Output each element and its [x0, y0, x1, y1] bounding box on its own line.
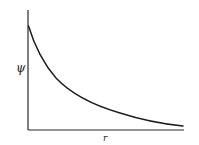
x-axis-label: r — [103, 133, 108, 143]
diagram-canvas: ψ r — [0, 0, 199, 145]
psi-vs-r-diagram: ψ r — [0, 0, 199, 145]
psi-curve — [29, 26, 184, 126]
y-axis-label: ψ — [16, 61, 26, 75]
